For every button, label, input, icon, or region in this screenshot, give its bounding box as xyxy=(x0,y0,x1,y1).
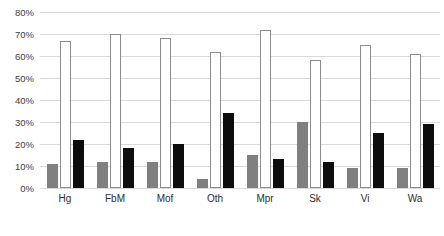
bar-vi-series-3 xyxy=(373,133,384,188)
bar-group-oth xyxy=(194,12,236,188)
bar-groups xyxy=(40,12,440,188)
bar-mpr-series-2 xyxy=(260,30,271,188)
x-tick-label-mof: Mof xyxy=(144,193,186,204)
bar-mpr-series-3 xyxy=(273,159,284,188)
x-tick-label-fbm: FbM xyxy=(94,193,136,204)
bar-vi-series-2 xyxy=(360,45,371,188)
x-tick-label-mpr: Mpr xyxy=(244,193,286,204)
y-tick-label: 80% xyxy=(0,7,34,18)
y-tick-label: 70% xyxy=(0,29,34,40)
x-tick-label-oth: Oth xyxy=(194,193,236,204)
y-tick-label: 30% xyxy=(0,117,34,128)
bar-group-wa xyxy=(394,12,436,188)
bar-mof-series-2 xyxy=(160,38,171,188)
bar-sk-series-3 xyxy=(323,162,334,188)
bar-sk-series-1 xyxy=(297,122,308,188)
x-tick-label-sk: Sk xyxy=(294,193,336,204)
bar-hg-series-2 xyxy=(60,41,71,188)
bar-wa-series-3 xyxy=(423,124,434,188)
bar-wa-series-1 xyxy=(397,168,408,188)
x-tick-label-vi: Vi xyxy=(344,193,386,204)
y-tick-label: 10% xyxy=(0,161,34,172)
bar-wa-series-2 xyxy=(410,54,421,188)
bar-mof-series-3 xyxy=(173,144,184,188)
bar-fbm-series-3 xyxy=(123,148,134,188)
gridline-0 xyxy=(40,188,440,189)
x-tick-label-wa: Wa xyxy=(394,193,436,204)
y-axis-tick-labels: 80%70%60%50%40%30%20%10%0% xyxy=(0,12,34,188)
y-tick-label: 0% xyxy=(0,183,34,194)
bar-sk-series-2 xyxy=(310,60,321,188)
bar-oth-series-3 xyxy=(223,113,234,188)
bar-group-mof xyxy=(144,12,186,188)
x-axis-category-labels: HgFbMMofOthMprSkViWa xyxy=(40,193,440,204)
x-tick-label-hg: Hg xyxy=(44,193,86,204)
bar-fbm-series-2 xyxy=(110,34,121,188)
bar-hg-series-1 xyxy=(47,164,58,188)
y-tick-label: 50% xyxy=(0,73,34,84)
bar-chart: 80%70%60%50%40%30%20%10%0% HgFbMMofOthMp… xyxy=(0,0,444,236)
y-tick-label: 60% xyxy=(0,51,34,62)
bar-group-fbm xyxy=(94,12,136,188)
bar-group-sk xyxy=(294,12,336,188)
y-tick-label: 40% xyxy=(0,95,34,106)
bar-group-hg xyxy=(44,12,86,188)
bar-oth-series-2 xyxy=(210,52,221,188)
bar-group-mpr xyxy=(244,12,286,188)
bar-mpr-series-1 xyxy=(247,155,258,188)
bar-group-vi xyxy=(344,12,386,188)
bar-oth-series-1 xyxy=(197,179,208,188)
bar-vi-series-1 xyxy=(347,168,358,188)
bar-fbm-series-1 xyxy=(97,162,108,188)
bar-hg-series-3 xyxy=(73,140,84,188)
y-tick-label: 20% xyxy=(0,139,34,150)
bar-mof-series-1 xyxy=(147,162,158,188)
